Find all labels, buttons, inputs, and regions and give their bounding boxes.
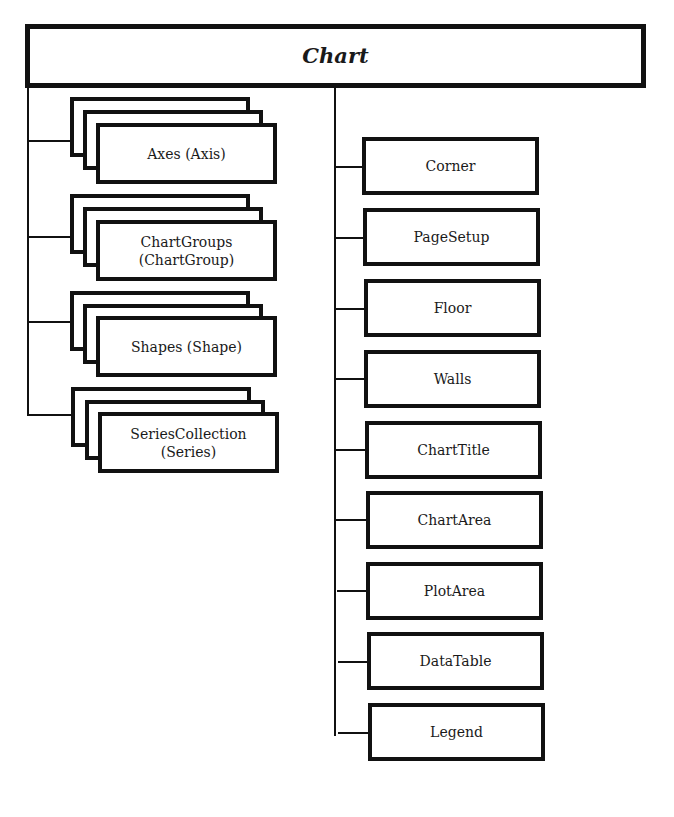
collection-chartgroups: ChartGroups (ChartGroup) [96,220,277,281]
collection-shapes: Shapes (Shape) [96,316,277,377]
connector-plotarea [337,590,367,592]
connector-chartgroups [27,236,71,238]
connector-legend [338,732,369,734]
connector-axes [27,140,71,142]
connector-datatable [338,661,368,663]
collection-chartgroups-label-line2: (ChartGroup) [139,251,235,269]
object-plotarea: PlotArea [366,562,543,620]
collection-axes-label: Axes (Axis) [147,145,226,163]
object-walls-label: Walls [434,370,472,388]
connector-corner [334,166,364,168]
connector-charttitle [336,449,366,451]
object-pagesetup-label: PageSetup [414,228,490,246]
connector-seriescollection [27,414,71,416]
object-plotarea-label: PlotArea [424,582,485,600]
object-legend-label: Legend [430,723,483,741]
connector-walls [335,378,365,380]
object-chartarea-label: ChartArea [418,511,492,529]
object-chartarea: ChartArea [366,491,543,549]
connector-pagesetup [334,237,364,239]
connector-floor [335,308,365,310]
chart-root-node: Chart [25,24,646,88]
connector-chartarea [336,519,366,521]
object-corner: Corner [362,137,539,195]
object-charttitle-label: ChartTitle [417,441,490,459]
object-floor: Floor [364,279,541,337]
object-pagesetup: PageSetup [363,208,540,266]
collection-chartgroups-label-line1: ChartGroups [141,233,233,251]
object-legend: Legend [368,703,545,761]
collection-seriescollection-label-line1: SeriesCollection [130,425,246,443]
object-corner-label: Corner [426,157,476,175]
left-trunk-connector [27,86,29,416]
collection-axes: Axes (Axis) [96,123,277,184]
collection-seriescollection: SeriesCollection (Series) [98,412,279,473]
object-datatable: DataTable [367,632,544,690]
collection-shapes-label: Shapes (Shape) [131,338,242,356]
object-charttitle: ChartTitle [365,421,542,479]
collection-seriescollection-label-line2: (Series) [161,443,216,461]
right-trunk-connector [334,86,336,736]
object-walls: Walls [364,350,541,408]
connector-shapes [27,321,71,323]
object-floor-label: Floor [434,299,472,317]
chart-root-label: Chart [302,47,368,65]
object-datatable-label: DataTable [420,652,492,670]
